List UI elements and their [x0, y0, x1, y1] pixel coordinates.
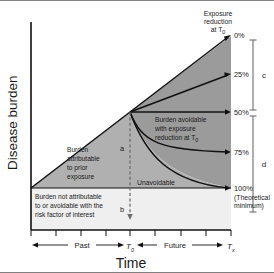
- legend-header-line3: at T0: [211, 26, 226, 35]
- region-not-attributable-line3: risk factor of interest: [35, 211, 95, 218]
- marker-label-b: b: [120, 205, 124, 214]
- region-avoidable-line1: Burden avoidable: [155, 116, 207, 123]
- figure-container: Disease burden Time Exposure reduction a…: [0, 0, 274, 273]
- reduction-label-25: 25%: [234, 70, 249, 79]
- reduction-label-100-note1: (Theoretical: [234, 194, 270, 202]
- legend-header-line2: reduction: [204, 18, 232, 25]
- y-axis-label: Disease burden: [5, 75, 20, 170]
- bracket-label-upper: c: [262, 71, 266, 80]
- time-axis-t0-subscript: 0: [131, 247, 134, 253]
- reduction-label-100: 100%: [234, 184, 253, 193]
- legend-header-line3-text: at T: [211, 26, 223, 33]
- legend-header-line1: Exposure: [204, 10, 233, 18]
- region-not-attributable-line2: to or avoidable with the: [35, 202, 103, 209]
- region-avoidable-line2: with exposure: [154, 125, 196, 133]
- region-attributable-line4: exposure: [67, 173, 94, 181]
- region-not-attributable-line1: Burden not attributable: [35, 193, 102, 200]
- chart-canvas: Disease burden Time Exposure reduction a…: [0, 0, 274, 273]
- region-avoidable-line3-text: reduction at T: [155, 134, 195, 141]
- reduction-label-0: 0%: [234, 31, 245, 40]
- reduction-label-50: 50%: [234, 108, 249, 117]
- legend-header-line3-subscript: 0: [222, 29, 225, 35]
- region-attributable-line3: to prior: [67, 164, 88, 172]
- time-axis-t0-label: T0: [126, 242, 134, 253]
- time-era-past-label: Past: [74, 241, 90, 250]
- time-axis-tx-label: Tx: [227, 242, 235, 253]
- bracket-label-lower: d: [262, 160, 266, 169]
- region-attributable-line1: Burden: [67, 146, 89, 153]
- region-avoidable-line3-subscript: 0: [195, 137, 198, 143]
- time-era-future-label: Future: [164, 241, 186, 250]
- region-unavoidable-label: Unavoidable: [137, 179, 175, 186]
- x-axis-ticks: [31, 230, 231, 236]
- reduction-label-100-note2: minimum): [234, 202, 264, 210]
- time-axis-tx-subscript: x: [231, 247, 235, 253]
- reduction-label-75: 75%: [234, 148, 249, 157]
- region-attributable-line2: attributable: [67, 155, 100, 162]
- x-axis-label: Time: [116, 255, 147, 271]
